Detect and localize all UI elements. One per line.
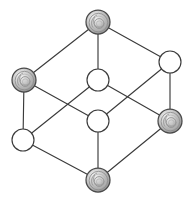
node-upper-left[interactable] bbox=[12, 68, 36, 92]
node-inner-upper[interactable] bbox=[87, 69, 109, 91]
figure-root: Cube graph node-link diagram 8 4 4 12 sh… bbox=[0, 0, 194, 200]
graph-canvas bbox=[0, 0, 194, 200]
edge-top--upper-left bbox=[24, 22, 98, 80]
edge-right--bottom bbox=[98, 121, 170, 180]
edge-inner-lower--upper-right bbox=[98, 62, 170, 121]
node-bottom[interactable] bbox=[86, 168, 110, 192]
node-lower-left[interactable] bbox=[12, 129, 34, 151]
edge-upper-left--inner-lower bbox=[24, 80, 98, 121]
node-right[interactable] bbox=[158, 109, 182, 133]
node-upper-right[interactable] bbox=[159, 51, 181, 73]
edge-layer bbox=[23, 22, 170, 180]
node-layer bbox=[12, 10, 182, 192]
node-inner-lower[interactable] bbox=[87, 110, 109, 132]
edge-lower-left--bottom bbox=[23, 140, 98, 180]
edge-inner-upper--lower-left bbox=[23, 80, 98, 140]
node-top[interactable] bbox=[86, 10, 110, 34]
